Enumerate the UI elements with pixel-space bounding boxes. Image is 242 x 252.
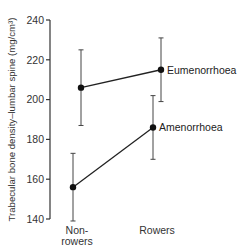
y-tick-label: 240 [26,14,44,26]
x-category-labels: Non-rowersRowers [61,224,175,247]
x-category-label: rowers [61,235,93,247]
y-tick-label: 140 [26,213,44,225]
data-point [150,124,156,130]
series-group: EumenorrhoeaAmenorrhoea [70,38,237,221]
series-label: Amenorrhoea [159,121,223,133]
series-label: Eumenorrhoea [167,64,237,76]
series-line [81,70,161,88]
chart: 140160180200220240 Trabecular bone densi… [0,0,242,252]
y-tick-label: 200 [26,93,44,105]
data-point [70,184,76,190]
y-tick-label: 160 [26,173,44,185]
y-tick-label: 180 [26,133,44,145]
data-point [158,67,164,73]
x-category-label: Rowers [139,224,175,236]
data-point [78,84,84,90]
y-axis-title: Trabecular bone density–lumbar spine (mg… [6,18,17,222]
series-amenorrhoea: Amenorrhoea [70,96,223,221]
y-axis-title-text: Trabecular bone density–lumbar spine (mg… [6,18,17,222]
series-eumenorrhoea: Eumenorrhoea [78,38,237,126]
series-line [73,127,153,187]
y-axis: 140160180200220240 [26,14,50,225]
y-tick-label: 220 [26,54,44,66]
